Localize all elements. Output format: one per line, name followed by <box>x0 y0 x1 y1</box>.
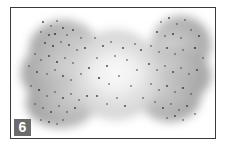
figure-frame: 6 <box>10 7 216 139</box>
figure-label: 6 <box>14 119 31 136</box>
dot-scatter <box>11 8 216 139</box>
